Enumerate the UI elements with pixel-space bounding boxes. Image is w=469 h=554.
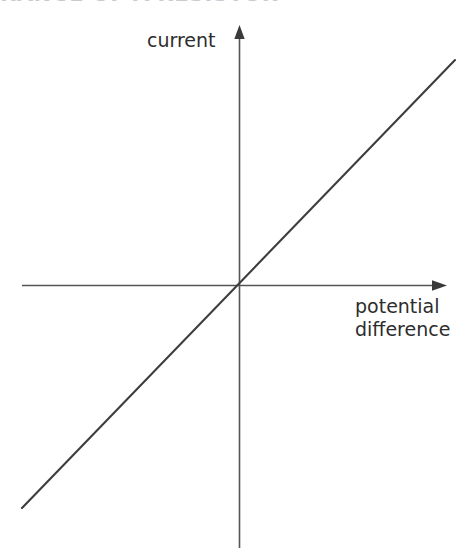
x-axis-label: potential difference xyxy=(355,295,450,341)
arrow-right-icon xyxy=(432,280,447,291)
x-axis-label-line-2: difference xyxy=(355,318,450,341)
iv-characteristic-figure: RANGE OF A RESISTOR current potential di… xyxy=(0,0,469,554)
y-axis-label: current xyxy=(147,29,216,51)
data-line-ohmic xyxy=(22,60,455,508)
graph-canvas xyxy=(0,0,469,554)
x-axis-label-line-1: potential xyxy=(355,295,450,318)
arrow-up-icon xyxy=(234,25,244,39)
